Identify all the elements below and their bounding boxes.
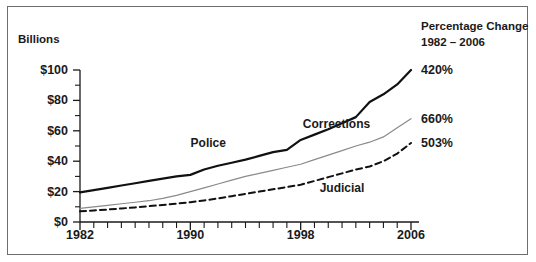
y-axis-tick-label: $0 — [20, 215, 68, 229]
legend-title-line-2: 1982 – 2006 — [421, 36, 485, 48]
y-axis-tick-label: $20 — [20, 185, 68, 199]
series-line-judicial — [80, 143, 411, 211]
x-axis-ticks — [80, 222, 411, 230]
y-axis-ticks — [73, 70, 80, 222]
series-line-corrections — [80, 119, 411, 209]
y-axis-tick-label: $100 — [20, 63, 68, 77]
y-axis-tick-label: $80 — [20, 93, 68, 107]
x-axis-tick-label: 1982 — [66, 228, 94, 242]
percent-change-judicial: 503% — [421, 136, 453, 150]
legend-title-line-1: Percentage Change — [421, 20, 528, 32]
series-line-police — [80, 70, 411, 192]
x-axis-tick-label: 2006 — [397, 228, 425, 242]
axes — [73, 70, 419, 230]
y-axis-tick-label: $60 — [20, 124, 68, 138]
x-axis-tick-label: 1990 — [176, 228, 204, 242]
series-label-judicial: Judicial — [320, 181, 365, 195]
y-axis-unit-label: Billions — [18, 33, 60, 45]
series-label-corrections: Corrections — [303, 117, 370, 131]
percent-change-corrections: 660% — [421, 112, 453, 126]
percent-change-police: 420% — [421, 63, 453, 77]
x-axis-tick-label: 1998 — [287, 228, 315, 242]
series-label-police: Police — [191, 136, 226, 150]
figure: Billions $0$20$40$60$80$100 198219901998… — [0, 0, 536, 262]
y-axis-tick-label: $40 — [20, 154, 68, 168]
